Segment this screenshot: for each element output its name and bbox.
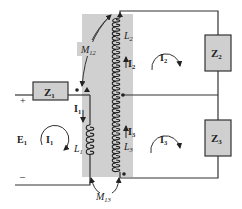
source-minus: – bbox=[19, 171, 26, 182]
impedance-Z2: Z2 bbox=[205, 35, 231, 71]
mesh-current-I2: I2 bbox=[152, 52, 180, 70]
branch-current-I1: I1 bbox=[74, 103, 83, 122]
inductor-L1-label: L1 bbox=[73, 143, 83, 155]
svg-text:I1: I1 bbox=[74, 103, 81, 115]
source-E1-label: E1 bbox=[17, 134, 27, 146]
polarity-dot-L3 bbox=[122, 172, 126, 176]
svg-text:I2: I2 bbox=[128, 58, 135, 70]
svg-text:I1: I1 bbox=[46, 134, 53, 146]
polarity-dot-L2-tap bbox=[121, 93, 125, 97]
source-plus: + bbox=[20, 95, 26, 106]
impedance-Z1: Z1 bbox=[33, 82, 68, 100]
transformer-circuit-diagram: Z1 Z2 Z3 + – E1 I1 I2 I3 bbox=[0, 0, 242, 209]
mesh-current-I1: I1 bbox=[41, 125, 69, 150]
polarity-dot-L1 bbox=[75, 88, 79, 92]
svg-text:M13: M13 bbox=[95, 191, 112, 203]
impedance-Z3: Z3 bbox=[205, 120, 231, 156]
branch-current-I2: I2 bbox=[126, 57, 135, 70]
branch-current-I3: I3 bbox=[126, 126, 136, 138]
mesh-current-I3: I3 bbox=[151, 134, 180, 153]
mutual-inductance-M13: M13 bbox=[91, 178, 119, 203]
